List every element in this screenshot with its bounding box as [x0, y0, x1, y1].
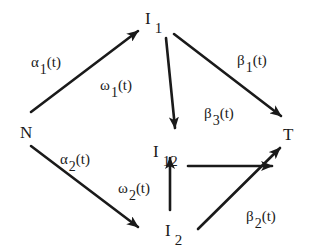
node-i12: I12 [153, 143, 178, 160]
label-beta2-subscript: 2 [255, 216, 262, 231]
label-beta1-symbol: β [237, 52, 245, 68]
label-omega1: ω1(t) [100, 78, 132, 93]
node-i1-label: I [145, 9, 151, 28]
node-t-label: T [283, 125, 293, 144]
label-alpha2-subscript: 2 [69, 159, 76, 174]
label-omega1-subscript: 1 [111, 85, 118, 100]
node-i1-subscript: 1 [155, 20, 163, 36]
label-beta3-symbol: β [204, 105, 212, 121]
label-beta3: β3(t) [204, 106, 234, 121]
node-t: T [283, 126, 293, 143]
label-beta2: β2(t) [246, 209, 276, 224]
label-alpha2-symbol: α [60, 151, 68, 167]
label-omega2: ω2(t) [118, 181, 150, 196]
edge-i1-to-i12 [166, 38, 175, 128]
label-beta1-subscript: 1 [246, 60, 253, 75]
label-beta2-symbol: β [246, 208, 254, 224]
node-i2-subscript: 2 [175, 232, 183, 248]
label-omega2-arg: (t) [136, 180, 150, 196]
label-alpha1-symbol: α [31, 54, 39, 70]
edge-i1-to-t [174, 34, 281, 116]
label-omega2-symbol: ω [118, 180, 128, 196]
node-n: N [20, 124, 32, 141]
node-i2-label: I [165, 221, 171, 240]
state-transition-diagram: N I1 I12 I2 T α1(t) α2(t) ω1(t) ω2(t) β1… [0, 0, 312, 252]
label-beta3-subscript: 3 [213, 113, 220, 128]
label-omega1-arg: (t) [118, 77, 132, 93]
label-alpha1-arg: (t) [47, 54, 61, 70]
label-alpha2: α2(t) [60, 152, 90, 167]
edge-n-to-i1 [31, 31, 138, 112]
label-alpha1: α1(t) [31, 55, 61, 70]
node-i1: I1 [145, 10, 162, 27]
label-beta1: β1(t) [237, 53, 267, 68]
label-beta3-arg: (t) [220, 105, 234, 121]
label-beta2-arg: (t) [262, 208, 276, 224]
node-i2: I2 [165, 222, 182, 239]
node-i12-subscript: 12 [163, 153, 178, 169]
node-n-label: N [20, 123, 32, 142]
label-beta1-arg: (t) [253, 52, 267, 68]
label-omega1-symbol: ω [100, 77, 110, 93]
label-alpha2-arg: (t) [76, 151, 90, 167]
node-i12-label: I [153, 142, 159, 161]
label-alpha1-subscript: 1 [40, 62, 47, 77]
label-omega2-subscript: 2 [129, 188, 136, 203]
